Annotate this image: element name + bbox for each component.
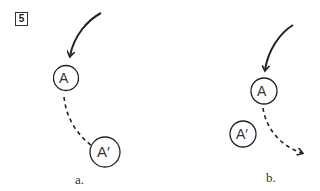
panel-a-caption: a. [75, 172, 84, 188]
node-a-prime-label: A′ [97, 143, 110, 160]
dashed-path-a [64, 97, 92, 146]
node-b-prime-label: A′ [236, 126, 248, 142]
diagram-canvas [0, 0, 320, 191]
node-b-label: A [257, 83, 266, 99]
incoming-arrow-b [265, 25, 293, 70]
panel-a [54, 13, 121, 167]
node-a-label: A [59, 70, 68, 86]
incoming-arrow-a [70, 13, 101, 56]
dashed-arrow-b [263, 108, 302, 153]
panel-b-caption: b. [266, 170, 276, 186]
